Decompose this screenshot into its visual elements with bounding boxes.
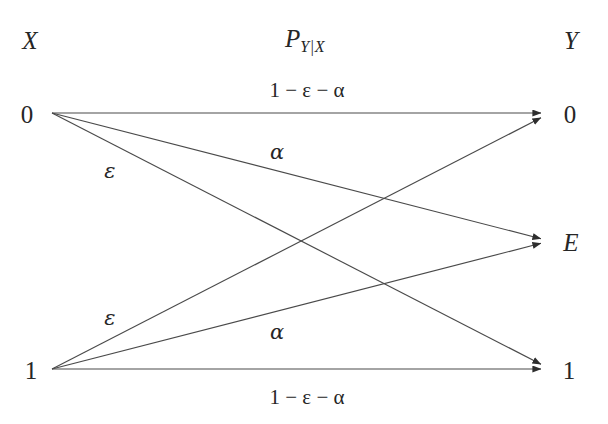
channel-edges-svg [0,0,608,424]
output-node-1: 1 [563,358,576,383]
edge-label-x0-yE: ε [104,161,115,182]
channel-law-subscript: Y|X [300,38,325,55]
edge-label-x1-y1: 1 − ε − α [269,387,344,408]
output-node-E: E [563,230,578,255]
edge-x1-y0 [52,118,541,369]
output-node-0: 0 [564,102,577,127]
input-variable-header: X [22,28,37,53]
edge-label-x1-y0: α [270,322,284,343]
channel-diagram-figure: X PY|X Y 0 1 0 E 1 1 − ε − α ε α α ε 1 −… [0,0,608,424]
edge-x0-y1 [52,113,541,364]
output-variable-header: Y [564,28,578,53]
input-node-0: 0 [21,102,34,127]
channel-law-header: PY|X [285,26,325,51]
edge-label-x0-y0: 1 − ε − α [269,80,344,101]
channel-law-base: P [285,25,300,52]
edge-x1-yE [52,243,541,369]
edge-label-x0-y1: α [270,142,284,163]
input-node-1: 1 [25,358,38,383]
edge-x0-yE [52,113,541,239]
edge-label-x1-yE: ε [104,308,115,329]
